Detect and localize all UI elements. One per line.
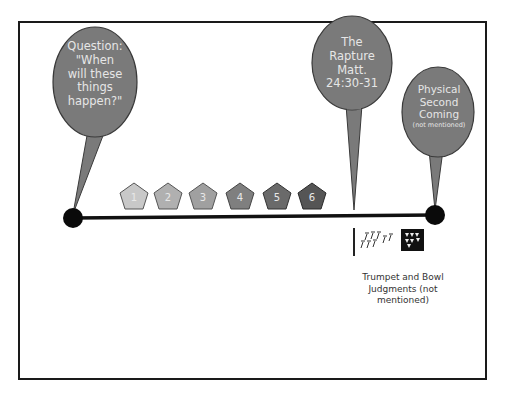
bubble-line: Matt.	[313, 64, 391, 78]
svg-text:1: 1	[131, 192, 137, 203]
bubble-line: Question:	[57, 40, 133, 54]
question-bubble-text: Question: "When will these things happen…	[57, 40, 133, 109]
timeline-start-dot	[63, 208, 83, 228]
seal-3: 3	[189, 183, 217, 209]
bubble-line: things	[57, 81, 133, 95]
bubble-line: 24:30-31	[313, 77, 391, 91]
bubble-line: Coming	[403, 108, 475, 121]
bubble-line: Physical	[403, 83, 475, 96]
seal-2: 2	[154, 183, 182, 209]
seal-4: 4	[226, 183, 254, 209]
timeline-end-dot	[425, 205, 445, 225]
trumpet-icons	[361, 232, 393, 248]
judgments-caption: Trumpet and Bowl Judgments (not mentione…	[353, 272, 453, 307]
bubble-line: will these	[57, 68, 133, 82]
rapture-bubble-text: The Rapture Matt. 24:30-31	[313, 36, 391, 91]
bubble-line: "When	[57, 54, 133, 68]
bubble-note: (not mentioned)	[403, 121, 475, 129]
timeline-line	[73, 215, 435, 218]
svg-text:2: 2	[165, 192, 171, 203]
second-coming-bubble-text: Physical Second Coming (not mentioned)	[403, 83, 475, 129]
svg-text:6: 6	[309, 192, 315, 203]
bubble-line: happen?"	[57, 95, 133, 109]
svg-text:5: 5	[274, 192, 280, 203]
bowl-icons	[401, 229, 424, 251]
seal-5: 5	[263, 183, 291, 209]
bubble-line: The	[313, 36, 391, 50]
bubble-line: Second	[403, 96, 475, 109]
bubble-line: Rapture	[313, 50, 391, 64]
seal-1: 1	[120, 183, 148, 209]
seal-6: 6	[298, 183, 326, 209]
svg-text:3: 3	[200, 192, 206, 203]
svg-text:4: 4	[237, 192, 243, 203]
